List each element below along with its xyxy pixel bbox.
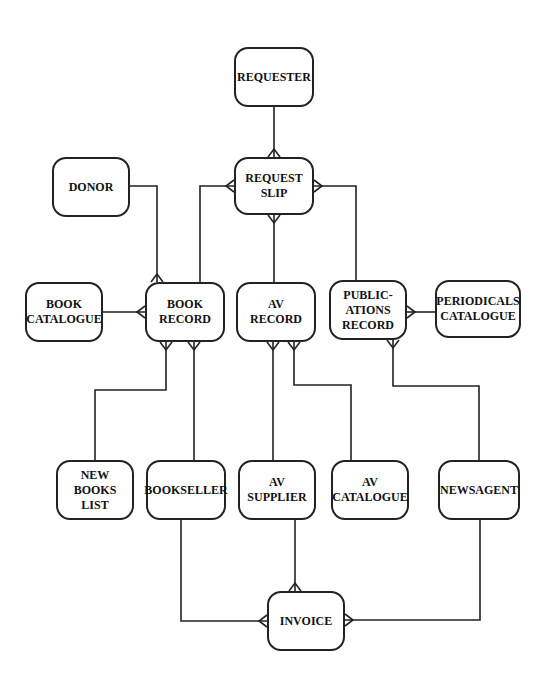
relationship-line — [130, 186, 157, 282]
entity-label: REQUESTER — [237, 70, 311, 85]
entity-new-books-list: NEWBOOKSLIST — [56, 460, 134, 520]
entity-label: CATALOGUE — [332, 490, 408, 505]
entity-label: AV — [362, 475, 378, 490]
entity-periodicals-catalogue: PERIODICALSCATALOGUE — [435, 280, 521, 338]
entity-label: CATALOGUE — [26, 312, 102, 327]
entity-label: BOOKS — [74, 483, 117, 498]
entity-label: SLIP — [261, 186, 288, 201]
entity-label: BOOK — [167, 297, 203, 312]
relationship-line — [345, 520, 480, 620]
entity-av-catalogue: AVCATALOGUE — [331, 460, 409, 520]
entity-label: INVOICE — [280, 614, 332, 629]
entity-publications-record: PUBLIC-ATIONSRECORD — [329, 280, 407, 340]
entity-av-supplier: AVSUPPLIER — [238, 460, 316, 520]
entity-book-record: BOOKRECORD — [145, 282, 225, 342]
relationship-line — [314, 186, 356, 280]
entity-label: PERIODICALS — [436, 294, 519, 309]
entity-label: REQUEST — [245, 171, 302, 186]
entity-label: DONOR — [69, 180, 114, 195]
entity-donor: DONOR — [52, 157, 130, 217]
relationship-line — [393, 340, 479, 460]
entity-invoice: INVOICE — [267, 591, 345, 651]
entity-label: BOOKSELLER — [144, 483, 227, 498]
entity-label: NEWSAGENT — [440, 483, 518, 498]
entity-label: BOOK — [46, 297, 82, 312]
relationship-line — [200, 186, 234, 282]
entity-book-catalogue: BOOKCATALOGUE — [25, 282, 103, 342]
entity-label: LIST — [81, 498, 108, 513]
entity-label: PUBLIC- — [343, 288, 392, 303]
relationship-line — [294, 342, 351, 460]
entity-label: RECORD — [250, 312, 302, 327]
entity-requester: REQUESTER — [234, 47, 314, 107]
entity-label: AV — [268, 297, 284, 312]
entity-label: CATALOGUE — [440, 309, 516, 324]
entity-newsagent: NEWSAGENT — [438, 460, 520, 520]
entity-label: RECORD — [159, 312, 211, 327]
entity-label: NEW — [81, 468, 110, 483]
entity-label: AV — [269, 475, 285, 490]
entity-bookseller: BOOKSELLER — [146, 460, 226, 520]
entity-av-record: AVRECORD — [236, 282, 316, 342]
entity-label: ATIONS — [345, 303, 390, 318]
entity-label: SUPPLIER — [247, 490, 306, 505]
entity-label: RECORD — [342, 318, 394, 333]
relationship-line — [95, 342, 166, 460]
entity-request-slip: REQUESTSLIP — [234, 157, 314, 215]
relationship-line — [181, 520, 267, 621]
